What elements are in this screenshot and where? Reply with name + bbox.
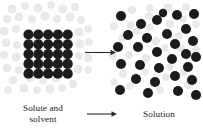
solute-particle	[152, 47, 162, 57]
solute-particle	[152, 15, 162, 25]
solute-particle	[63, 49, 73, 59]
solute-particle	[116, 59, 126, 69]
solute-particle	[115, 85, 125, 95]
solute-crystal-lattice	[23, 29, 72, 78]
solute-particle	[23, 69, 33, 79]
solvent-particle	[3, 15, 11, 23]
solute-particle	[43, 49, 53, 59]
solvent-particle	[145, 12, 152, 19]
solvent-particle	[20, 84, 28, 92]
solute-particle	[63, 69, 73, 79]
solvent-particle	[12, 53, 20, 61]
solute-particle	[188, 36, 198, 46]
solute-particle	[142, 33, 152, 43]
solute-particle	[173, 86, 183, 96]
solvent-particle	[28, 15, 35, 22]
solute-particle	[159, 9, 167, 17]
solvent-particle	[69, 80, 77, 88]
solvent-particle	[2, 39, 10, 47]
solvent-particle	[75, 52, 82, 59]
solute-particle	[53, 29, 63, 39]
solute-particle	[181, 49, 191, 59]
solute-particle	[133, 42, 143, 52]
solute-particle	[33, 49, 43, 59]
solute-particle	[135, 60, 145, 70]
solute-particle	[162, 29, 172, 39]
solute-particle	[63, 39, 73, 49]
solvent-particle	[0, 27, 8, 35]
solvent-particle	[77, 16, 84, 23]
solvent-particle	[176, 33, 183, 40]
solvent-particle	[142, 69, 149, 76]
solvent-particle	[15, 66, 22, 73]
solute-particle	[43, 69, 53, 79]
solute-particle	[191, 52, 201, 62]
solvent-particle	[8, 5, 16, 13]
solvent-particle	[167, 64, 173, 70]
solute-particle	[116, 11, 126, 21]
solute-particle	[53, 49, 63, 59]
solvent-particle	[74, 65, 82, 73]
solute-particle	[183, 62, 193, 72]
solute-particle	[23, 59, 33, 69]
solvent-particle	[85, 38, 92, 45]
solute-particle	[143, 88, 153, 98]
solvent-particle	[125, 51, 132, 58]
solute-particle	[131, 74, 141, 84]
solute-particle	[181, 24, 191, 34]
solvent-particle	[15, 13, 23, 21]
solvent-particle	[85, 26, 92, 33]
solvent-particle	[34, 4, 42, 12]
solvent-particle	[33, 86, 40, 93]
solute-particle	[53, 39, 63, 49]
solute-particle	[191, 90, 201, 100]
solvent-particle	[13, 41, 20, 48]
solute-particle	[23, 29, 33, 39]
solvent-particle	[9, 76, 17, 84]
solute-particle	[150, 77, 160, 87]
solvent-particle	[21, 2, 28, 9]
solvent-particle	[41, 12, 49, 20]
solute-particle	[53, 59, 63, 69]
solvent-particle	[146, 4, 153, 11]
solvent-particle	[111, 79, 118, 86]
solvent-particle	[48, 2, 55, 9]
solvent-particle	[75, 28, 83, 36]
solute-particle	[154, 63, 164, 73]
solvent-particle	[128, 22, 135, 29]
solute-particle	[170, 71, 180, 81]
solute-particle	[167, 54, 177, 64]
solvent-particle	[0, 51, 8, 59]
solute-particle	[43, 29, 53, 39]
solute-particle	[63, 59, 73, 69]
solvent-particle	[119, 70, 126, 77]
solvent-particle	[58, 84, 65, 91]
solute-particle	[43, 39, 53, 49]
solute-particle	[23, 49, 33, 59]
solvent-particle	[12, 25, 19, 32]
solute-particle	[33, 29, 43, 39]
caption-solution: Solution	[127, 109, 191, 120]
solvent-particle	[152, 37, 160, 45]
solute-particle	[33, 39, 43, 49]
solute-particle	[113, 42, 123, 52]
solvent-particle	[53, 15, 61, 23]
solute-particle	[53, 69, 63, 79]
solvent-particle	[162, 45, 169, 52]
solvent-particle	[84, 54, 92, 62]
solute-particle	[172, 10, 182, 20]
solvent-particle	[4, 86, 11, 93]
solvent-particle	[182, 3, 189, 10]
solvent-particle	[157, 87, 164, 94]
solvent-particle	[147, 24, 153, 30]
solute-particle	[63, 29, 73, 39]
solvent-particle	[126, 82, 133, 89]
solute-particle	[33, 69, 43, 79]
solvent-particle	[76, 40, 84, 48]
solute-particle	[33, 59, 43, 69]
solute-particle	[136, 19, 146, 29]
solvent-particle	[162, 73, 169, 80]
solvent-particle	[128, 6, 136, 14]
solvent-particle	[166, 20, 174, 28]
solvent-particle	[46, 85, 54, 93]
